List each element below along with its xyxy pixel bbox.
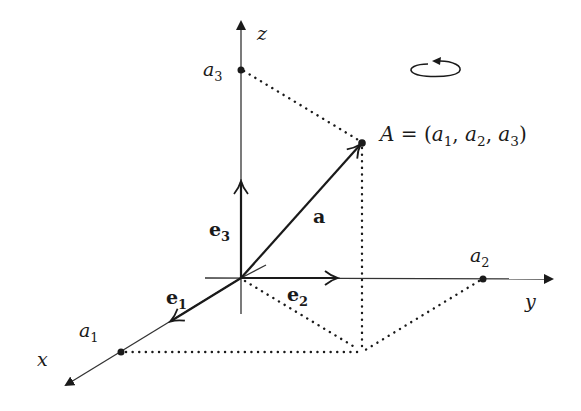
point-A bbox=[358, 139, 366, 147]
projection-a2-to-foot bbox=[362, 281, 479, 352]
vector-a-label: a bbox=[313, 207, 325, 226]
projection-a3-to-A bbox=[244, 71, 360, 141]
point-a1 bbox=[118, 349, 125, 356]
a1-label: a1 bbox=[79, 321, 99, 344]
vector-a bbox=[241, 145, 360, 278]
point-A-coordinates-label: A = (a1, a2, a3) bbox=[380, 124, 527, 148]
y-axis-label: y bbox=[525, 292, 536, 311]
x-axis-label: x bbox=[37, 350, 48, 369]
e3-label: e3 bbox=[209, 220, 230, 243]
a3-label: a3 bbox=[203, 60, 223, 83]
z-axis-label: z bbox=[257, 24, 267, 43]
e2-label: e2 bbox=[287, 285, 308, 308]
point-a3 bbox=[238, 67, 245, 74]
counterclockwise-rotation-icon bbox=[411, 57, 460, 77]
diagram-canvas bbox=[0, 0, 581, 411]
a2-label: a2 bbox=[470, 246, 490, 269]
point-a2 bbox=[480, 276, 487, 283]
basis-vectors bbox=[171, 182, 337, 321]
e1-label: e1 bbox=[166, 288, 187, 311]
coordinate-diagram: z y x a3 a2 a1 e1 e2 e3 a A = (a1, a2, a… bbox=[0, 0, 581, 411]
